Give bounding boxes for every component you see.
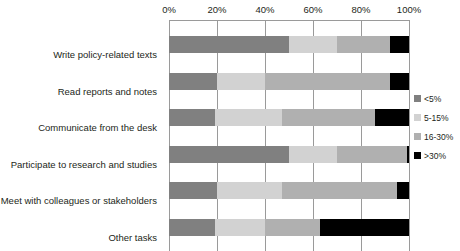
- category-label: Participate to research and studies: [0, 159, 157, 170]
- category-label: Read reports and notes: [0, 86, 157, 97]
- x-tick-label: 80%: [351, 4, 370, 16]
- bar-row: [169, 219, 409, 236]
- legend-item[interactable]: 5-15%: [414, 109, 460, 126]
- gridline: [409, 20, 410, 251]
- bar-segment: [289, 146, 337, 163]
- bar-segment: [215, 219, 265, 236]
- bar-segment: [337, 146, 407, 163]
- category-label: Meet with colleagues or stakeholders: [0, 195, 157, 206]
- category-label: Write policy-related texts: [0, 49, 157, 60]
- bar-segment: [407, 146, 409, 163]
- legend-label: <5%: [424, 94, 441, 104]
- bar-segment: [265, 219, 320, 236]
- bar-segment: [265, 73, 390, 90]
- legend-swatch-icon: [414, 95, 421, 102]
- legend-swatch-icon: [414, 114, 421, 121]
- bar-segment: [282, 109, 376, 126]
- bar-segment: [217, 73, 265, 90]
- bar-row: [169, 36, 409, 53]
- bar-segment: [215, 109, 282, 126]
- bar-row: [169, 109, 409, 126]
- gridline: [169, 20, 170, 251]
- gridline: [361, 20, 362, 251]
- bar-segment: [169, 219, 215, 236]
- chart-legend: <5%5-15%16-30%>30%: [414, 90, 460, 166]
- category-label: Other tasks: [0, 232, 157, 243]
- bar-segment: [169, 109, 215, 126]
- bar-segment: [169, 36, 289, 53]
- legend-item[interactable]: 16-30%: [414, 128, 460, 145]
- bar-segment: [169, 146, 289, 163]
- gridline: [217, 20, 218, 251]
- legend-label: >30%: [424, 151, 446, 161]
- bar-segment: [390, 73, 409, 90]
- category-label: Communicate from the desk: [0, 122, 157, 133]
- bar-segment: [289, 36, 337, 53]
- x-tick-label: 100%: [397, 4, 421, 16]
- legend-swatch-icon: [414, 152, 421, 159]
- legend-item[interactable]: >30%: [414, 147, 460, 164]
- bar-segment: [169, 73, 217, 90]
- bar-segment: [337, 36, 390, 53]
- axis-top-line: [169, 20, 409, 21]
- category-axis-labels: Write policy-related textsRead reports a…: [0, 30, 163, 251]
- bar-segment: [217, 182, 282, 199]
- bar-segment: [397, 182, 409, 199]
- x-tick-label: 40%: [255, 4, 274, 16]
- bar-segment: [169, 182, 217, 199]
- legend-item[interactable]: <5%: [414, 90, 460, 107]
- bar-segment: [375, 109, 409, 126]
- bar-segment: [390, 36, 409, 53]
- x-tick-label: 0%: [162, 4, 176, 16]
- x-tick-label: 20%: [207, 4, 226, 16]
- legend-swatch-icon: [414, 133, 421, 140]
- x-axis-tick-labels: 0%20%40%60%80%100%: [169, 4, 409, 18]
- legend-label: 5-15%: [424, 113, 449, 123]
- x-tick-label: 60%: [303, 4, 322, 16]
- legend-label: 16-30%: [424, 132, 453, 142]
- bar-segment: [320, 219, 409, 236]
- bar-row: [169, 73, 409, 90]
- stacked-bar-chart: 0%20%40%60%80%100% Write policy-related …: [0, 0, 460, 251]
- gridline: [313, 20, 314, 251]
- bar-row: [169, 146, 409, 163]
- bar-segment: [282, 182, 397, 199]
- bar-row: [169, 182, 409, 199]
- plot-area: [169, 20, 409, 251]
- gridline: [265, 20, 266, 251]
